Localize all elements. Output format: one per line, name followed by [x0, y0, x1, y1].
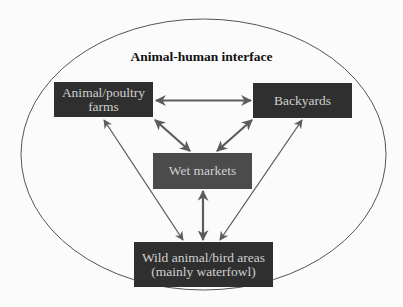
- arrow-backyards-wetmarkets: [217, 120, 252, 151]
- node-label: Backyards: [274, 94, 331, 108]
- node-backyards: Backyards: [253, 83, 352, 118]
- node-label-line1: Wild animal/bird areas: [142, 251, 265, 265]
- node-wild-animal-bird-areas: Wild animal/bird areas (mainly waterfowl…: [134, 242, 273, 287]
- node-label: Wet markets: [169, 164, 237, 178]
- node-wet-markets: Wet markets: [153, 153, 252, 189]
- diagram-title: Animal-human interface: [0, 49, 403, 65]
- node-label-line2: farms: [62, 100, 145, 114]
- node-label-line1: Animal/poultry: [62, 86, 145, 100]
- diagram-canvas: Animal-human interface Animal/poultry fa…: [0, 0, 403, 307]
- node-label-line2: (mainly waterfowl): [142, 265, 265, 279]
- node-animal-poultry-farms: Animal/poultry farms: [54, 82, 153, 117]
- arrow-farms-wetmarkets: [155, 120, 190, 151]
